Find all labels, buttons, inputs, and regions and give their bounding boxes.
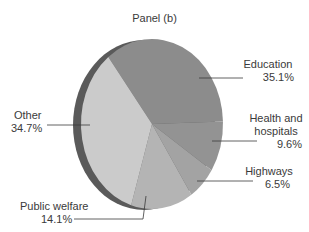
label-health-name-2: hospitals bbox=[246, 125, 306, 138]
label-education-name: Education bbox=[240, 58, 296, 71]
label-highways-name: Highways bbox=[244, 165, 294, 178]
label-public-welfare: Public welfare 14.1% bbox=[20, 200, 100, 226]
label-other-value: 34.7% bbox=[11, 122, 51, 135]
label-health-value: 9.6% bbox=[246, 138, 306, 151]
pie-slices bbox=[73, 39, 223, 210]
label-highways: Highways 6.5% bbox=[244, 165, 294, 191]
label-education-value: 35.1% bbox=[240, 71, 296, 84]
label-health: Health and hospitals 9.6% bbox=[246, 112, 306, 151]
label-public-welfare-name: Public welfare bbox=[20, 200, 100, 213]
label-education: Education 35.1% bbox=[240, 58, 296, 84]
label-highways-value: 6.5% bbox=[244, 178, 294, 191]
label-other: Other 34.7% bbox=[11, 109, 51, 135]
label-health-name-1: Health and bbox=[246, 112, 306, 125]
label-other-name: Other bbox=[11, 109, 51, 122]
label-public-welfare-value: 14.1% bbox=[20, 213, 100, 226]
